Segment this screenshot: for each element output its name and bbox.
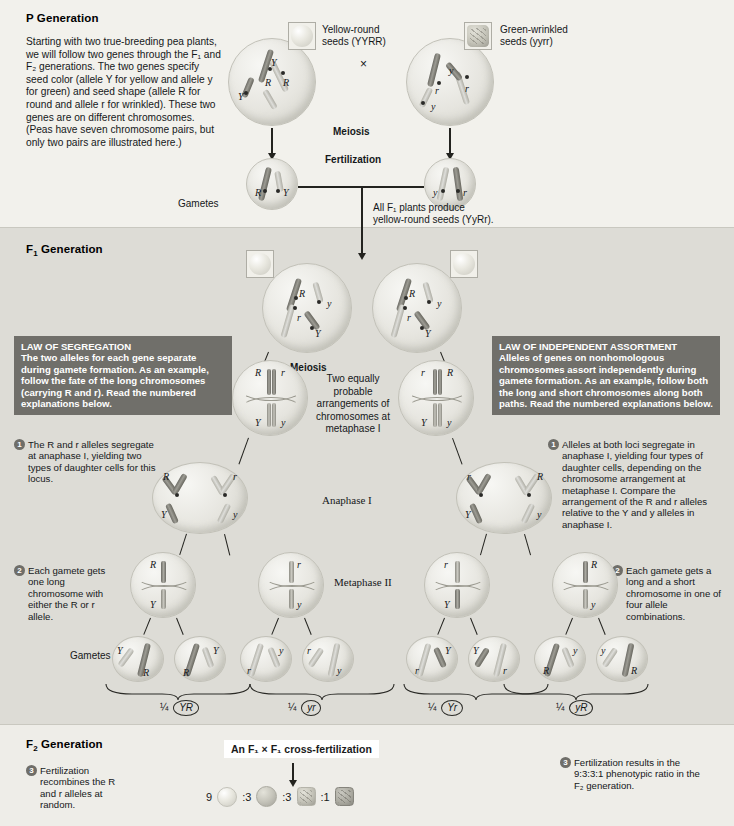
centromere xyxy=(310,326,314,330)
gamete-cell-7: R y xyxy=(534,636,586,682)
p-generation-paragraph: Starting with two true-breeding pea plan… xyxy=(26,36,222,149)
chromatid xyxy=(521,503,536,525)
f1-generation-header: F1 Generation xyxy=(26,243,103,258)
allele-label: y xyxy=(279,645,283,656)
chromosome-short-y xyxy=(437,167,450,202)
allele-label: Y xyxy=(425,328,431,339)
spindle-arc-bottom xyxy=(241,397,301,419)
allele-label: y xyxy=(431,101,435,112)
ratio-part-3: :3 xyxy=(282,791,291,803)
allele-label: r xyxy=(281,367,285,378)
centromere xyxy=(223,493,227,497)
f1-gametes-label: Gametes xyxy=(70,650,111,662)
gamete-fraction-2: ¼ yr xyxy=(288,700,321,716)
centromere xyxy=(465,75,469,79)
allele-label: Y xyxy=(255,417,261,428)
yellow-round-seed-icon xyxy=(217,787,237,807)
centromere xyxy=(317,300,321,304)
meiosis-arrow-right-stem xyxy=(449,128,451,156)
allele-label: Y xyxy=(473,645,479,656)
allele-label: Y xyxy=(117,645,123,656)
chromosome-long-r xyxy=(453,167,464,202)
p-gametes-label: Gametes xyxy=(178,198,219,210)
centromere xyxy=(276,189,280,193)
gamete-cell-1: Y R xyxy=(112,636,164,682)
chromatid-R xyxy=(438,369,442,395)
law-of-segregation-banner: LAW OF SEGREGATION The two alleles for e… xyxy=(14,336,232,415)
allele-label: Y xyxy=(150,599,156,610)
allele-label: y xyxy=(433,187,437,198)
callout-text: Alleles at both loci segregate in anapha… xyxy=(562,439,724,530)
chromosome-long xyxy=(583,561,588,583)
parent-left-label: Yellow-round seeds (YYRR) xyxy=(322,24,414,48)
allele-label: Y xyxy=(445,645,451,656)
callout-text: The R and r alleles segregate at anaphas… xyxy=(28,439,162,485)
chromatid xyxy=(217,503,232,525)
callout-text: Fertilization recombines the R and r all… xyxy=(40,765,118,811)
allele-label: Y xyxy=(315,328,321,339)
allele-label: R xyxy=(591,559,597,570)
allele-label: r xyxy=(233,471,237,482)
centromere xyxy=(263,189,267,193)
gamete-fraction-3: ¼ Yr xyxy=(428,700,463,716)
allele-label: y xyxy=(327,298,331,309)
metaphase2-cell-2: r y xyxy=(258,552,324,618)
allele-label: R xyxy=(183,667,189,678)
allele-label: y xyxy=(537,509,541,520)
chromosome-short-y1 xyxy=(445,62,463,82)
allele-label: y xyxy=(449,65,453,76)
allele-label: R xyxy=(447,367,453,378)
allele-label: R xyxy=(150,559,156,570)
gamete-cell-6: Y r xyxy=(468,636,520,682)
chromatid xyxy=(476,473,492,494)
seed-swatch-green-wrinkled xyxy=(464,22,492,50)
centromere xyxy=(175,493,179,497)
allele-label: r xyxy=(307,645,311,656)
centromere xyxy=(421,101,425,105)
chromatid xyxy=(469,503,483,525)
centromere xyxy=(427,300,431,304)
gamete-genotype: yr xyxy=(301,700,321,716)
ratio-part-4: :1 xyxy=(321,791,330,803)
gamete-braces xyxy=(104,682,652,700)
seed-swatch-yellow-round xyxy=(288,22,316,50)
band-divider-2 xyxy=(0,724,734,725)
allele-label: y xyxy=(601,645,605,656)
gamete-cell-4: y r xyxy=(302,636,354,682)
allele-label: r xyxy=(435,85,439,96)
allele-label: R xyxy=(265,77,271,88)
callout-left-3: 3 Fertilization recombines the R and r a… xyxy=(26,763,118,811)
fert-vertical xyxy=(361,186,363,256)
chromosome-long xyxy=(289,561,294,583)
chromatid-R xyxy=(267,369,271,395)
parent-right-label-line2: seeds (yyrr) xyxy=(500,36,553,47)
callout-number: 3 xyxy=(560,757,571,768)
p-generation-header: P Generation xyxy=(26,12,99,24)
metaphase2-cell-3: r Y xyxy=(424,552,490,618)
arrangements-note: Two equally probable arrangements of chr… xyxy=(311,373,395,436)
chromatid xyxy=(172,473,188,494)
centromere xyxy=(244,91,248,95)
chromosome-short xyxy=(289,589,294,609)
callout-right-1: 1 Alleles at both loci segregate in anap… xyxy=(548,437,724,530)
centromere xyxy=(420,326,424,330)
callout-left-2: 2 Each gamete gets one long chromosome w… xyxy=(14,563,110,622)
anaphase1-cell-left: R r Y y xyxy=(152,462,248,534)
chromosome-long xyxy=(455,561,460,583)
allele-label: R xyxy=(283,77,289,88)
allele-label: y xyxy=(281,417,285,428)
metaphase2-cell-1: R Y xyxy=(130,552,196,618)
gamete-genotype: Yr xyxy=(441,700,463,716)
anaphase1-label: Anaphase I xyxy=(322,494,372,506)
chromosome-short xyxy=(455,589,460,609)
allele-label: r xyxy=(415,665,419,676)
fraction-value: ¼ xyxy=(288,702,296,713)
law-of-segregation-body: The two alleles for each gene separate d… xyxy=(21,352,209,409)
allele-label: R xyxy=(409,288,415,299)
gamete-cell-3: r y xyxy=(240,636,292,682)
yellow-wrinkled-seed-icon xyxy=(297,787,316,806)
allele-label: R xyxy=(255,187,261,198)
genetics-figure: P Generation Starting with two true-bree… xyxy=(0,0,734,826)
centromere xyxy=(293,306,297,310)
callout-number: 1 xyxy=(14,439,25,450)
